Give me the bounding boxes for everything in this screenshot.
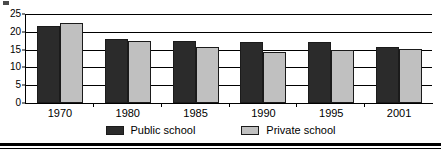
gridline-5 bbox=[25, 85, 432, 86]
x-tick-label-1995: 1995 bbox=[319, 107, 343, 120]
bar-group-2001 bbox=[376, 14, 422, 103]
bar-private-1995 bbox=[331, 50, 354, 103]
x-tick-mark-1 bbox=[93, 103, 94, 107]
bar-public-1995 bbox=[308, 42, 331, 103]
y-tick-label-15: 15 bbox=[10, 45, 21, 55]
y-tick-mark-15 bbox=[22, 49, 25, 50]
gridline-15 bbox=[25, 50, 432, 51]
legend-entry-private: Private school bbox=[241, 124, 335, 136]
chart-legend: Public school Private school bbox=[0, 124, 441, 136]
y-tick-label-5: 5 bbox=[15, 80, 21, 90]
bar-group-1970 bbox=[37, 14, 83, 103]
x-tick-label-1970: 1970 bbox=[48, 107, 72, 120]
bar-private-1990 bbox=[263, 52, 286, 103]
legend-entry-public: Public school bbox=[106, 124, 196, 136]
bar-group-1980 bbox=[105, 14, 151, 103]
bar-public-1985 bbox=[173, 41, 196, 103]
legend-swatch-private-icon bbox=[241, 126, 259, 135]
bar-public-1980 bbox=[105, 39, 128, 103]
y-tick-mark-10 bbox=[22, 67, 25, 68]
bar-group-1985 bbox=[173, 14, 219, 103]
x-tick-mark-2 bbox=[161, 103, 162, 107]
gridline-20 bbox=[25, 32, 432, 33]
y-tick-mark-25 bbox=[22, 14, 25, 15]
x-tick-label-1980: 1980 bbox=[116, 107, 140, 120]
bar-private-1970 bbox=[60, 23, 83, 103]
x-tick-mark-4 bbox=[296, 103, 297, 107]
y-tick-label-25: 25 bbox=[10, 9, 21, 19]
bar-private-1985 bbox=[196, 47, 219, 103]
x-tick-label-2001: 2001 bbox=[387, 107, 411, 120]
gridline-10 bbox=[25, 67, 432, 68]
bar-group-1990 bbox=[240, 14, 286, 103]
legend-swatch-public-icon bbox=[106, 126, 124, 135]
bar-public-2001 bbox=[376, 47, 399, 103]
y-tick-mark-20 bbox=[22, 31, 25, 32]
bar-group-1995 bbox=[308, 14, 354, 103]
x-tick-mark-3 bbox=[229, 103, 230, 107]
bar-private-2001 bbox=[399, 49, 422, 103]
y-tick-label-10: 10 bbox=[10, 62, 21, 72]
bar-public-1990 bbox=[240, 42, 263, 103]
legend-label-public: Public school bbox=[131, 124, 196, 136]
y-tick-label-0: 0 bbox=[15, 98, 21, 108]
footer-rule bbox=[0, 143, 441, 146]
y-tick-mark-0 bbox=[22, 103, 25, 104]
x-tick-label-1985: 1985 bbox=[183, 107, 207, 120]
bar-private-1980 bbox=[128, 41, 151, 103]
bar-chart-figure: 0510152025 Public school Private school … bbox=[0, 0, 441, 152]
x-tick-mark-5 bbox=[364, 103, 365, 107]
footer-rule-thin bbox=[0, 148, 441, 149]
x-tick-label-1990: 1990 bbox=[251, 107, 275, 120]
corner-mark bbox=[3, 1, 9, 5]
legend-label-private: Private school bbox=[266, 124, 335, 136]
bar-public-1970 bbox=[37, 26, 60, 103]
plot-area: 0510152025 bbox=[25, 14, 432, 103]
y-tick-label-20: 20 bbox=[10, 27, 21, 37]
gridline-25 bbox=[25, 14, 432, 15]
y-tick-mark-5 bbox=[22, 85, 25, 86]
